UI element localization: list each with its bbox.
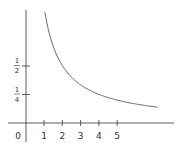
chart-canvas: 0 1 2 3 4 5 1 2 1 4 xyxy=(0,0,186,150)
svg-text:4: 4 xyxy=(15,96,20,104)
x-tick-label: 1 xyxy=(41,131,47,141)
svg-text:2: 2 xyxy=(15,67,19,75)
svg-text:1: 1 xyxy=(15,86,19,94)
y-tick-label-quarter: 1 4 xyxy=(14,86,20,105)
x-tick-label: 3 xyxy=(78,131,84,141)
svg-text:1: 1 xyxy=(15,57,19,65)
x-tick-labels: 0 1 2 3 4 5 xyxy=(15,131,120,141)
origin-label: 0 xyxy=(15,131,21,141)
x-tick-label: 2 xyxy=(59,131,65,141)
x-tick-label: 5 xyxy=(114,131,120,141)
reciprocal-curve xyxy=(45,12,158,107)
x-tick-label: 4 xyxy=(96,131,102,141)
y-tick-label-half: 1 2 xyxy=(14,57,20,75)
